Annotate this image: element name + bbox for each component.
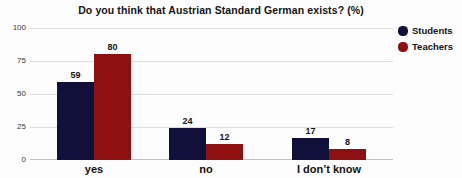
gridline bbox=[30, 61, 393, 62]
legend: StudentsTeachers bbox=[398, 23, 453, 55]
bar-teachers-0 bbox=[94, 54, 131, 160]
y-tick-label: 0 bbox=[2, 156, 26, 164]
bar-value-label: 12 bbox=[206, 132, 243, 142]
bar-value-label: 8 bbox=[329, 137, 366, 147]
plot-area: 02550751005980yes2412no178I don’t know bbox=[30, 28, 393, 160]
bar-teachers-2 bbox=[329, 149, 366, 160]
gridline bbox=[30, 28, 393, 29]
x-category-label: yes bbox=[37, 163, 151, 175]
y-tick-label: 100 bbox=[2, 24, 26, 32]
x-category-label: I don’t know bbox=[272, 163, 386, 175]
bar-students-1 bbox=[169, 128, 206, 160]
bar-chart: Do you think that Austrian Standard Germ… bbox=[0, 0, 462, 178]
legend-swatch-icon bbox=[398, 26, 408, 36]
bar-value-label: 59 bbox=[57, 70, 94, 80]
y-tick-label: 75 bbox=[2, 57, 26, 65]
x-category-label: no bbox=[149, 163, 263, 175]
bar-teachers-1 bbox=[206, 144, 243, 160]
legend-label: Teachers bbox=[412, 41, 453, 52]
bar-value-label: 17 bbox=[292, 126, 329, 136]
y-tick-label: 25 bbox=[2, 123, 26, 131]
bar-students-2 bbox=[292, 138, 329, 160]
bar-value-label: 80 bbox=[94, 42, 131, 52]
legend-item-teachers: Teachers bbox=[398, 39, 453, 54]
legend-item-students: Students bbox=[398, 23, 453, 38]
bar-value-label: 24 bbox=[169, 116, 206, 126]
legend-label: Students bbox=[412, 25, 453, 36]
chart-title: Do you think that Austrian Standard Germ… bbox=[0, 4, 442, 16]
legend-swatch-icon bbox=[398, 42, 408, 52]
bar-students-0 bbox=[57, 82, 94, 160]
y-tick-label: 50 bbox=[2, 90, 26, 98]
